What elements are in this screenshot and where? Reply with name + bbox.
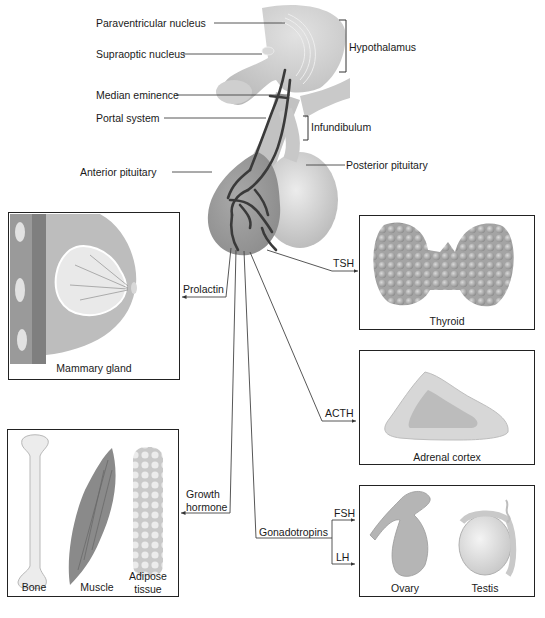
infundibulum-bracket (303, 116, 308, 140)
label-lh: LH (336, 551, 349, 563)
label-infundibulum: Infundibulum (311, 121, 371, 133)
label-prolactin: Prolactin (183, 283, 224, 295)
thyroid-box (359, 215, 535, 330)
label-growth-hormone-line2: hormone (186, 501, 227, 513)
adrenal-cortex-box (359, 350, 535, 465)
caption-testis: Testis (463, 582, 507, 594)
label-tsh: TSH (333, 257, 354, 269)
caption-ovary: Ovary (385, 582, 425, 594)
label-gonadotropins: Gonadotropins (259, 526, 328, 538)
label-median-eminence: Median eminence (96, 89, 179, 101)
label-posterior-pituitary: Posterior pituitary (346, 159, 428, 171)
label-hypothalamus: Hypothalamus (349, 41, 416, 53)
mammary-gland-box (8, 212, 180, 380)
caption-bone: Bone (14, 581, 54, 593)
label-portal-system: Portal system (96, 112, 160, 124)
label-supraoptic-nucleus: Supraoptic nucleus (96, 48, 185, 60)
label-fsh: FSH (334, 507, 355, 519)
caption-mammary-gland: Mammary gland (8, 362, 180, 374)
gonads-box (359, 485, 535, 597)
hormone-lines (181, 248, 358, 564)
caption-adipose-line1: Adipose (124, 570, 172, 582)
label-growth-hormone-line1: Growth (186, 488, 220, 500)
label-acth: ACTH (325, 407, 354, 419)
label-paraventricular-nucleus: Paraventricular nucleus (96, 17, 206, 29)
label-anterior-pituitary: Anterior pituitary (80, 166, 156, 178)
caption-muscle: Muscle (72, 581, 122, 593)
caption-adrenal-cortex: Adrenal cortex (359, 451, 535, 463)
caption-adipose-line2: tissue (124, 583, 172, 595)
caption-thyroid: Thyroid (359, 315, 535, 327)
